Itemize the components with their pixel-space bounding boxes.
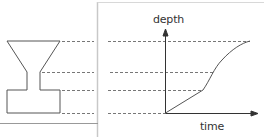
diagram-canvas: depth time bbox=[0, 0, 264, 137]
x-axis-label: time bbox=[200, 120, 224, 133]
panel-borders bbox=[0, 2, 264, 137]
depth-time-curve bbox=[166, 41, 251, 113]
container-shape bbox=[7, 41, 60, 113]
y-axis-label: depth bbox=[153, 13, 184, 26]
guide-lines-left bbox=[42, 42, 94, 114]
x-axis-arrow-icon bbox=[251, 111, 258, 116]
y-axis-arrow-icon bbox=[163, 29, 168, 36]
guide-lines-right bbox=[108, 42, 250, 114]
